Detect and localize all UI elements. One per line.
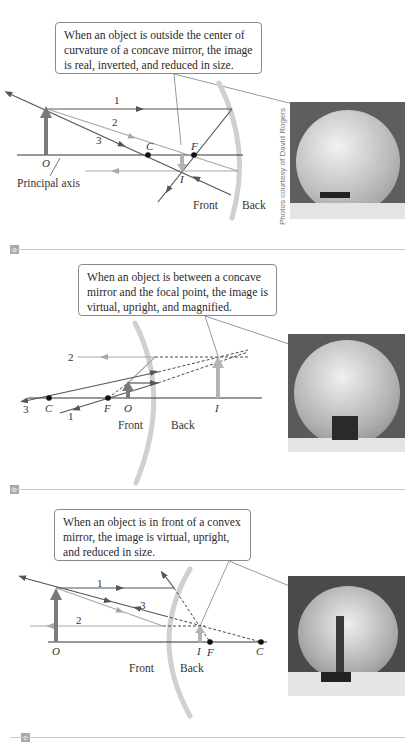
svg-text:3: 3 bbox=[140, 599, 146, 611]
svg-text:F: F bbox=[206, 646, 214, 658]
panel-c: When an object is in front of a convex m… bbox=[0, 0, 417, 751]
svg-text:2: 2 bbox=[76, 614, 82, 626]
svg-text:1: 1 bbox=[97, 577, 103, 589]
front-label-c: Front bbox=[129, 662, 154, 674]
svg-text:I: I bbox=[196, 645, 202, 657]
svg-text:O: O bbox=[52, 645, 60, 657]
back-label-c: Back bbox=[180, 662, 204, 674]
svg-text:C: C bbox=[256, 645, 264, 657]
photo-convex bbox=[288, 576, 405, 696]
divider-c bbox=[10, 737, 405, 738]
